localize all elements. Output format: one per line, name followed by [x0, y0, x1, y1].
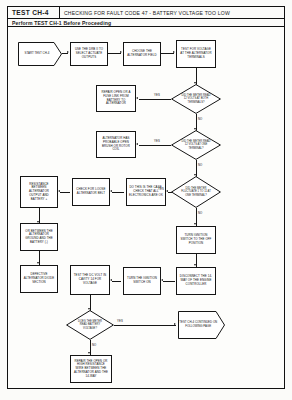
connector-start-to-drb — [62, 53, 68, 54]
arrowhead-right — [174, 323, 176, 325]
edge-label-no-4: NO — [92, 343, 96, 347]
node-repair-open-label: REPAIR OPEN OR A FUSE LINK FROM BATTERY … — [98, 91, 134, 106]
arrowhead-left — [166, 190, 168, 192]
page-header: TEST CH-4 CHECKING FOR FAULT CODE 47 - B… — [7, 6, 285, 18]
node-test-cavity: TEST THE DC VOLT IN CAVITY 14 FOR VOLTAG… — [70, 265, 110, 295]
connector-ground-down — [39, 251, 40, 265]
arrowhead-down — [37, 262, 39, 264]
connector-decision4-yes — [114, 325, 176, 326]
connector-test-to-decision1 — [196, 68, 197, 85]
node-start-label: START TEST CH-4 — [18, 42, 62, 66]
connector-decision2-yes — [139, 145, 171, 146]
arrowhead-left — [110, 190, 112, 192]
node-disconnect-14way-label: DISCONNECT THE 14-WAY OF THE ENGINE CONT… — [178, 275, 214, 286]
node-resistance: RESISTANCE BETWEEN ALTERNATOR OUTPUT AND… — [20, 176, 58, 208]
node-defective-alternator: DEFECTIVE ALTERNATOR DIODE SECTION — [20, 265, 58, 293]
arrowhead-down — [88, 352, 90, 354]
node-test-voltage-terminals-label: TEST FOR VOLTAGE AT THE ALTERNATOR TERMI… — [178, 48, 214, 59]
connector-check-to-docheck — [112, 192, 124, 193]
node-between-ground-label: OR BETWEEN THE ALTERNATOR GROUND AND THE… — [22, 230, 56, 245]
connector-drb-to-field — [108, 53, 121, 54]
edge-label-no-3: NO — [198, 211, 202, 215]
node-repair-open: REPAIR OPEN OR A FUSE LINK FROM BATTERY … — [96, 85, 136, 112]
arrowhead-down — [194, 223, 196, 225]
arrowhead-right — [67, 51, 69, 53]
edge-label-yes-2: YES — [154, 139, 160, 143]
node-resistance-label: RESISTANCE BETWEEN ALTERNATOR OUTPUT AND… — [22, 183, 56, 202]
connector-resistance-down — [39, 208, 40, 224]
node-check-belt-label: CHECK FOR LOOSE ALTERNATOR BELT — [74, 188, 108, 195]
arrowhead-right — [173, 51, 175, 53]
node-test-voltage-terminals: TEST FOR VOLTAGE AT THE ALTERNATOR TERMI… — [176, 40, 216, 68]
connector-disconnect-to-ignon — [163, 281, 175, 282]
decision-fluctuate: DID THE METER FLUCTUATE 1 TO 11 AT ONE T… — [171, 176, 221, 208]
node-choose-field-label: CHOOSE THE ALTERNATOR FIELD — [125, 50, 159, 57]
node-continued-terminator: TEST CH-4 CONTINUED ON FOLLOWING PAGE — [178, 311, 225, 339]
node-choose-field: CHOOSE THE ALTERNATOR FIELD — [123, 42, 161, 66]
connector-decision4-no — [90, 340, 91, 355]
connector-ignoff-to-disconnect — [196, 254, 197, 267]
arrowhead-right — [120, 51, 122, 53]
connector-ignon-to-testcav — [112, 281, 121, 282]
connector-decision3-no — [196, 208, 197, 226]
node-continued-label: TEST CH-4 CONTINUED ON FOLLOWING PAGE — [178, 311, 225, 339]
test-code-label: TEST CH-4 — [8, 7, 60, 18]
edge-label-yes-3: YES — [158, 187, 164, 191]
decision-battery-voltage-label: DOES THE METER READ BATTERY VOLTAGE? — [66, 310, 114, 340]
node-repair-open-14way: REPAIR THE OPEN OR HIGH RESISTANCE WIRE … — [70, 355, 112, 383]
arrowhead-left — [136, 97, 138, 99]
edge-label-no-1: NO — [198, 117, 202, 121]
flowchart-canvas: START TEST CH-4 USE THE DRB II TO SELECT… — [7, 27, 285, 389]
connector-decision3-yes — [168, 192, 172, 193]
decision-read-one-terminal: DID THE METER READ 12 VOLTS AT ONE TERMI… — [171, 130, 221, 160]
edge-label-yes-4: YES — [117, 319, 123, 323]
node-check-belt: CHECK FOR LOOSE ALTERNATOR BELT — [72, 178, 110, 206]
decision-read-one-label: DID THE METER READ 12 VOLTS AT ONE TERMI… — [171, 130, 221, 160]
connector-belt-to-resistance — [60, 192, 70, 193]
node-between-ground: OR BETWEEN THE ALTERNATOR GROUND AND THE… — [20, 223, 58, 251]
node-turn-ignition-on: TURN THE IGNITION SWITCH ON — [123, 267, 161, 295]
arrowhead-left — [136, 143, 138, 145]
connector-decision1-yes — [139, 99, 171, 100]
page-subtitle: Perform TEST CH-1 Before Proceeding — [7, 18, 285, 27]
arrowhead-down — [194, 264, 196, 266]
node-turn-ignition-off-label: TURN IGNITION SWITCH TO THE OFF POSITION — [178, 234, 214, 245]
decision-battery-voltage: DOES THE METER READ BATTERY VOLTAGE? — [66, 310, 114, 340]
decision-read-both-label: DID THE METER READ 12 VOLTS AT BOTH TERM… — [171, 84, 221, 114]
arrowhead-left — [110, 279, 112, 281]
connector-decision1-no — [196, 114, 197, 131]
node-disconnect-14way: DISCONNECT THE 14-WAY OF THE ENGINE CONT… — [176, 267, 216, 295]
arrowhead-left — [58, 190, 60, 192]
service-manual-page: TEST CH-4 CHECKING FOR FAULT CODE 47 - B… — [0, 0, 292, 400]
arrowhead-left — [161, 279, 163, 281]
page-title: CHECKING FOR FAULT CODE 47 - BATTERY VOL… — [60, 7, 230, 18]
edge-label-no-2: NO — [198, 163, 202, 167]
node-repair-open-14way-label: REPAIR THE OPEN OR HIGH RESISTANCE WIRE … — [72, 360, 110, 379]
node-alternator-brush: ALTERNATOR HAS PROBABLE OPEN BRUSH OR RO… — [96, 131, 136, 158]
node-use-drb: USE THE DRB II TO SELECT ACTUATE OUTPUTS — [70, 42, 108, 66]
connector-testcav-to-decision4 — [90, 295, 91, 311]
node-defective-alternator-label: DEFECTIVE ALTERNATOR DIODE SECTION — [22, 273, 56, 284]
edge-label-yes-1: YES — [154, 93, 160, 97]
node-do-this-check: DO THIS IS THE CASE, CHECK THAT ALL ELEC… — [126, 178, 166, 206]
connector-field-to-test — [161, 53, 174, 54]
node-use-drb-label: USE THE DRB II TO SELECT ACTUATE OUTPUTS — [72, 48, 106, 59]
node-alternator-brush-label: ALTERNATOR HAS PROBABLE OPEN BRUSH OR RO… — [98, 137, 134, 152]
decision-fluctuate-label: DID THE METER FLUCTUATE 1 TO 11 AT ONE T… — [171, 176, 221, 208]
node-turn-ignition-off: TURN IGNITION SWITCH TO THE OFF POSITION — [176, 226, 216, 254]
node-test-cavity-label: TEST THE DC VOLT IN CAVITY 14 FOR VOLTAG… — [72, 274, 108, 285]
node-turn-ignition-on-label: TURN THE IGNITION SWITCH ON — [125, 277, 159, 284]
decision-read-both-terminals: DID THE METER READ 12 VOLTS AT BOTH TERM… — [171, 84, 221, 114]
connector-decision2-no — [196, 160, 197, 177]
node-start-terminator: START TEST CH-4 — [18, 42, 62, 66]
